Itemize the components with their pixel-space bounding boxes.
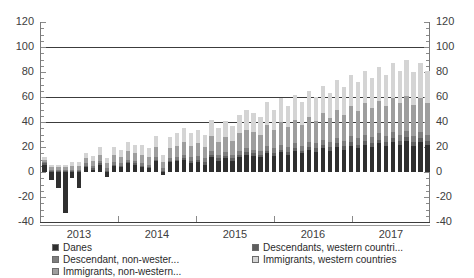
bar-segment	[342, 87, 346, 115]
legend-left-item[interactable]: Immigrants, non-western...	[52, 266, 181, 277]
bar-segment	[307, 117, 311, 142]
bar-segment	[398, 71, 402, 104]
bar-segment	[342, 150, 346, 173]
bar-segment	[279, 150, 283, 153]
bar-segment	[56, 172, 60, 188]
bar-segment	[175, 133, 179, 146]
bar-segment	[98, 161, 102, 164]
bar-column	[300, 22, 304, 222]
bar-segment	[196, 160, 200, 163]
bar-segment	[168, 137, 172, 148]
bar-segment	[140, 163, 144, 166]
bar-segment	[161, 171, 165, 172]
bar-segment	[342, 141, 346, 146]
y-tick-label-right: 0	[436, 166, 472, 177]
legend-right-item[interactable]: Descendants, western countri...	[252, 242, 403, 253]
bar-column	[70, 22, 74, 222]
y-tick-label-left: -40	[0, 216, 34, 227]
bar-column	[223, 22, 227, 222]
bar-segment	[321, 148, 325, 172]
y-tick-label-right: 80	[436, 66, 472, 77]
legend-label: Immigrants, non-western...	[63, 266, 181, 277]
bar-segment	[384, 146, 388, 172]
bar-segment	[251, 150, 255, 154]
bar-segment	[126, 162, 130, 163]
bar-segment	[356, 145, 360, 149]
bar-segment	[370, 78, 374, 108]
bar-column	[404, 22, 408, 222]
bar-segment	[258, 135, 262, 151]
bar-segment	[216, 155, 220, 159]
legend-label: Descendants, western countri...	[263, 242, 403, 253]
bar-segment	[307, 147, 311, 150]
bar-segment	[244, 152, 248, 155]
bar-segment	[237, 115, 241, 134]
bar-segment	[404, 131, 408, 137]
bar-segment	[42, 165, 46, 173]
y-tick-label-left: 40	[0, 116, 34, 127]
y-tick-label-right: -40	[436, 216, 472, 227]
bar-segment	[77, 170, 81, 171]
bar-segment	[56, 170, 60, 171]
bar-segment	[49, 167, 53, 170]
legend-right-item[interactable]: Immigrants, western countries	[252, 254, 403, 265]
bar-segment	[300, 146, 304, 151]
bar-segment	[418, 138, 422, 142]
bar-segment	[279, 152, 283, 172]
bar-segment	[300, 125, 304, 146]
y-tick-label-left: 0	[0, 166, 34, 177]
bar-segment	[126, 142, 130, 151]
bar-segment	[182, 128, 186, 142]
legend-swatch-icon	[52, 256, 59, 263]
y-tick-label-left: 60	[0, 91, 34, 102]
bar-segment	[98, 163, 102, 164]
legend-column-left: DanesDescendant, non-wester...Immigrants…	[52, 242, 181, 278]
legend-left-item[interactable]: Descendant, non-wester...	[52, 254, 181, 265]
bar-segment	[223, 152, 227, 156]
bar-segment	[265, 125, 269, 146]
bar-segment	[314, 143, 318, 148]
bar-segment	[286, 155, 290, 173]
bar-segment	[391, 142, 395, 172]
bar-segment	[70, 166, 74, 170]
bar-segment	[418, 142, 422, 172]
bar-segment	[244, 130, 248, 149]
bar-segment	[49, 171, 53, 172]
bar-segment	[209, 120, 213, 136]
bar-segment	[293, 151, 297, 172]
bar-segment	[133, 163, 137, 164]
bar-segment	[154, 136, 158, 147]
bar-segment	[237, 155, 241, 158]
bar-segment	[363, 103, 367, 134]
bar-segment	[140, 155, 144, 164]
bar-segment	[391, 132, 395, 138]
bar-segment	[418, 63, 422, 98]
bar-column	[293, 22, 297, 222]
bar-column	[112, 22, 116, 222]
bar-segment	[203, 158, 207, 162]
bar-segment	[91, 156, 95, 161]
bar-segment	[307, 142, 311, 147]
bar-segment	[258, 155, 262, 158]
bar-column	[279, 22, 283, 222]
legend-left-item[interactable]: Danes	[52, 242, 181, 253]
legend-swatch-icon	[52, 268, 59, 275]
x-tick-label: 2016	[288, 228, 338, 240]
y-tick-label-left: 80	[0, 66, 34, 77]
bar-column	[314, 22, 318, 222]
bar-column	[418, 22, 422, 222]
bar-segment	[182, 142, 186, 155]
bar-segment	[133, 165, 137, 173]
bar-segment	[349, 75, 353, 106]
bar-segment	[77, 172, 81, 188]
bar-segment	[377, 143, 381, 172]
bar-segment	[411, 105, 415, 136]
x-tick-mark	[352, 216, 353, 222]
bar-column	[175, 22, 179, 222]
bar-segment	[251, 132, 255, 150]
bar-segment	[398, 141, 402, 145]
bar-segment	[112, 162, 116, 165]
bar-segment	[140, 167, 144, 172]
bar-segment	[286, 127, 290, 147]
y-tick-label-left: 20	[0, 141, 34, 152]
